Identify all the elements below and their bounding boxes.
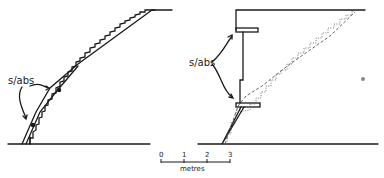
scale-unit-label: metres — [180, 165, 205, 173]
slab-marker-dot — [31, 123, 34, 126]
scale-tick-label-0: 0 — [159, 151, 163, 159]
scale-bar — [161, 159, 230, 163]
scale-tick-label-3: 3 — [228, 151, 232, 159]
left-upper-slab-line — [22, 10, 152, 144]
lower-strut — [222, 107, 244, 144]
right-slabs-label: s/abs — [189, 57, 215, 68]
left-stair-profile — [30, 10, 155, 144]
upper-cantilever-slab — [236, 28, 258, 32]
scale-tick-label-1: 1 — [182, 151, 186, 159]
right-arrow-to-lower-slab — [212, 64, 232, 97]
diagram-canvas: s/abs 0 1 2 3 metres s/abs — [0, 0, 384, 178]
right-section — [198, 10, 378, 144]
right-top-wall — [236, 10, 365, 30]
right-wall — [240, 32, 243, 103]
left-arrow-to-lower-slab — [19, 87, 26, 118]
ink-smudge — [361, 77, 365, 81]
dotted-stair-profile — [227, 11, 356, 144]
slab-marker-dot — [57, 88, 60, 91]
left-slabs-label: s/abs — [8, 75, 34, 86]
scale-tick-label-2: 2 — [205, 151, 209, 159]
